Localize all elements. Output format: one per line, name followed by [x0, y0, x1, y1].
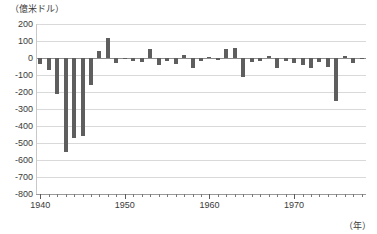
bar	[343, 56, 347, 58]
x-axis-minor-tick	[243, 194, 244, 197]
bar	[106, 38, 110, 58]
x-axis-minor-tick	[159, 194, 160, 197]
bar	[89, 58, 93, 85]
y-axis-tick-label: -500	[0, 138, 33, 148]
x-axis-minor-tick	[235, 194, 236, 197]
bar	[326, 58, 330, 67]
x-axis-minor-tick	[269, 194, 270, 197]
x-axis-minor-tick	[353, 194, 354, 197]
bar	[275, 58, 279, 68]
gridline	[36, 75, 366, 76]
y-axis-tick-label: -800	[0, 189, 33, 199]
bar	[182, 55, 186, 58]
x-axis-minor-tick	[277, 194, 278, 197]
y-axis-tick-label: -200	[0, 87, 33, 97]
x-axis-minor-tick	[286, 194, 287, 197]
bar	[317, 58, 321, 62]
bar	[55, 58, 59, 94]
x-axis-minor-tick	[116, 194, 117, 197]
bar	[199, 58, 203, 61]
y-axis-tick-label: 200	[0, 19, 33, 29]
gridline	[36, 126, 366, 127]
x-axis-minor-tick	[328, 194, 329, 197]
bar	[292, 58, 296, 63]
plot-area	[36, 24, 366, 194]
bar	[207, 57, 211, 58]
bar	[72, 58, 76, 138]
x-axis-minor-tick	[311, 194, 312, 197]
bar	[47, 58, 51, 70]
x-axis-minor-tick	[150, 194, 151, 197]
y-axis-tick-label: -300	[0, 104, 33, 114]
gridline	[36, 24, 366, 25]
y-axis-tick-label: -400	[0, 121, 33, 131]
x-axis-minor-tick	[142, 194, 143, 197]
bar	[64, 58, 68, 152]
x-axis-minor-tick	[319, 194, 320, 197]
bar	[131, 58, 135, 61]
bar	[250, 58, 254, 62]
x-axis-major-tick	[209, 194, 210, 199]
bar	[97, 51, 101, 58]
x-axis-minor-tick	[193, 194, 194, 197]
x-axis-tick-label: 1960	[199, 200, 219, 210]
x-axis-minor-tick	[83, 194, 84, 197]
bar	[284, 58, 288, 61]
x-axis-minor-tick	[336, 194, 337, 197]
y-axis-tick-labels: 2001000-100-200-300-400-500-600-700-800	[0, 24, 33, 194]
bar	[174, 58, 178, 64]
x-axis-tick-label: 1950	[115, 200, 135, 210]
bar	[140, 58, 144, 62]
bar	[258, 58, 262, 61]
x-axis-minor-tick	[218, 194, 219, 197]
bar	[309, 58, 313, 68]
x-axis-minor-tick	[108, 194, 109, 197]
x-axis-minor-tick	[176, 194, 177, 197]
x-axis-tick-label: 1970	[284, 200, 304, 210]
x-axis-minor-tick	[91, 194, 92, 197]
x-axis-minor-tick	[133, 194, 134, 197]
x-axis-minor-tick	[345, 194, 346, 197]
x-axis-minor-tick	[303, 194, 304, 197]
bar	[191, 58, 195, 68]
x-axis-minor-tick	[252, 194, 253, 197]
bar	[81, 58, 85, 136]
x-axis-minor-tick	[184, 194, 185, 197]
bar	[241, 58, 245, 77]
x-axis-minor-tick	[167, 194, 168, 197]
x-axis-major-tick	[294, 194, 295, 199]
bar	[157, 58, 161, 65]
gridline	[36, 143, 366, 144]
y-axis-tick-label: -600	[0, 155, 33, 165]
x-axis-unit-label: （年）	[344, 219, 371, 232]
x-axis-major-tick	[40, 194, 41, 199]
chart-root: （億米ドル） 2001000-100-200-300-400-500-600-7…	[0, 0, 377, 234]
bar	[233, 48, 237, 58]
bar	[334, 58, 338, 101]
bar	[360, 58, 364, 59]
x-axis-minor-tick	[226, 194, 227, 197]
gridline	[36, 160, 366, 161]
gridline	[36, 92, 366, 93]
bar	[123, 58, 127, 59]
y-axis-tick-label: -700	[0, 172, 33, 182]
x-axis-minor-tick	[74, 194, 75, 197]
gridline	[36, 109, 366, 110]
gridline	[36, 177, 366, 178]
bar	[148, 49, 152, 58]
y-axis-tick-label: 100	[0, 36, 33, 46]
x-axis-major-tick	[125, 194, 126, 199]
y-axis-tick-label: -100	[0, 70, 33, 80]
x-axis-minor-tick	[99, 194, 100, 197]
bar	[38, 58, 42, 64]
y-axis-unit-label: （億米ドル）	[10, 2, 64, 15]
y-axis-tick-label: 0	[0, 53, 33, 63]
x-axis-minor-tick	[362, 194, 363, 197]
bar	[267, 56, 271, 58]
x-axis-tick-label: 1940	[30, 200, 50, 210]
x-axis-minor-tick	[201, 194, 202, 197]
bar	[224, 49, 228, 58]
bar	[216, 58, 220, 60]
gridline	[36, 41, 366, 42]
x-axis-minor-tick	[66, 194, 67, 197]
